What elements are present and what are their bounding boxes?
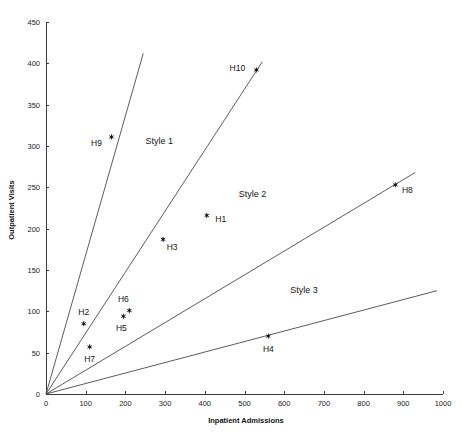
y-tick-label: 450 bbox=[27, 18, 40, 27]
data-point-h3 bbox=[161, 237, 166, 242]
ray-style1-boundary-upper bbox=[46, 53, 143, 394]
scatter-chart: 0100200300400500600700800900100005010015… bbox=[0, 0, 465, 438]
marker-center bbox=[122, 315, 124, 317]
y-tick-label: 400 bbox=[27, 59, 40, 68]
marker-center bbox=[206, 214, 208, 216]
marker-center bbox=[267, 335, 269, 337]
point-label-h10: H10 bbox=[230, 63, 246, 73]
data-point-h7 bbox=[87, 344, 92, 349]
axis-ticks bbox=[46, 23, 444, 395]
data-point-h2 bbox=[81, 321, 86, 326]
y-tick-label: 50 bbox=[32, 349, 40, 358]
point-label-h4: H4 bbox=[263, 344, 274, 354]
data-points bbox=[81, 67, 397, 349]
y-tick-label: 150 bbox=[27, 266, 40, 275]
marker-center bbox=[162, 238, 164, 240]
annotation-style-2: Style 2 bbox=[239, 189, 267, 199]
y-axis-title: Outpatient Visits bbox=[7, 180, 16, 239]
axes bbox=[46, 22, 443, 394]
plot-svg: 0100200300400500600700800900100005010015… bbox=[0, 0, 465, 438]
ray-style2-style3-boundary bbox=[46, 172, 415, 394]
point-label-h9: H9 bbox=[91, 138, 102, 148]
y-tick-label: 300 bbox=[27, 142, 40, 151]
point-label-h7: H7 bbox=[84, 354, 95, 364]
point-label-h1: H1 bbox=[215, 214, 226, 224]
marker-center bbox=[110, 136, 112, 138]
x-tick-label: 200 bbox=[119, 399, 132, 408]
marker-center bbox=[255, 69, 257, 71]
marker-center bbox=[89, 346, 91, 348]
reference-rays bbox=[46, 53, 437, 394]
marker-center bbox=[83, 323, 85, 325]
data-point-h6 bbox=[127, 308, 131, 313]
marker-center bbox=[394, 184, 396, 186]
style-region-labels: Style 1Style 2Style 3 bbox=[145, 136, 317, 295]
axis-tick-labels: 0100200300400500600700800900100005010015… bbox=[27, 18, 451, 408]
y-tick-label: 0 bbox=[36, 390, 40, 399]
x-tick-label: 100 bbox=[79, 399, 92, 408]
ray-style1-style2-boundary bbox=[46, 62, 262, 394]
data-point-h5 bbox=[121, 314, 126, 319]
y-tick-label: 250 bbox=[27, 183, 40, 192]
ray-style3-boundary-lower bbox=[46, 291, 437, 394]
x-tick-label: 1000 bbox=[435, 399, 452, 408]
annotation-style-3: Style 3 bbox=[290, 285, 318, 295]
y-tick-label: 100 bbox=[27, 307, 40, 316]
x-tick-label: 300 bbox=[159, 399, 172, 408]
x-tick-label: 900 bbox=[397, 399, 410, 408]
y-tick-label: 350 bbox=[27, 101, 40, 110]
x-tick-label: 500 bbox=[238, 399, 251, 408]
data-point-labels: H1H2H3H4H5H6H7H8H9H10 bbox=[78, 63, 413, 364]
y-tick-label: 200 bbox=[27, 225, 40, 234]
data-point-h9 bbox=[109, 134, 114, 139]
annotation-style-1: Style 1 bbox=[145, 136, 173, 146]
x-tick-label: 400 bbox=[199, 399, 212, 408]
point-label-h2: H2 bbox=[78, 307, 89, 317]
x-tick-label: 0 bbox=[44, 399, 48, 408]
point-label-h3: H3 bbox=[167, 242, 178, 252]
x-axis-title: Inpatient Admissions bbox=[208, 416, 284, 425]
x-tick-label: 600 bbox=[278, 399, 291, 408]
x-tick-label: 800 bbox=[357, 399, 370, 408]
marker-center bbox=[128, 309, 130, 311]
point-label-h6: H6 bbox=[118, 294, 129, 304]
point-label-h5: H5 bbox=[116, 323, 127, 333]
x-tick-label: 700 bbox=[318, 399, 331, 408]
point-label-h8: H8 bbox=[402, 185, 413, 195]
data-point-h1 bbox=[205, 213, 210, 218]
